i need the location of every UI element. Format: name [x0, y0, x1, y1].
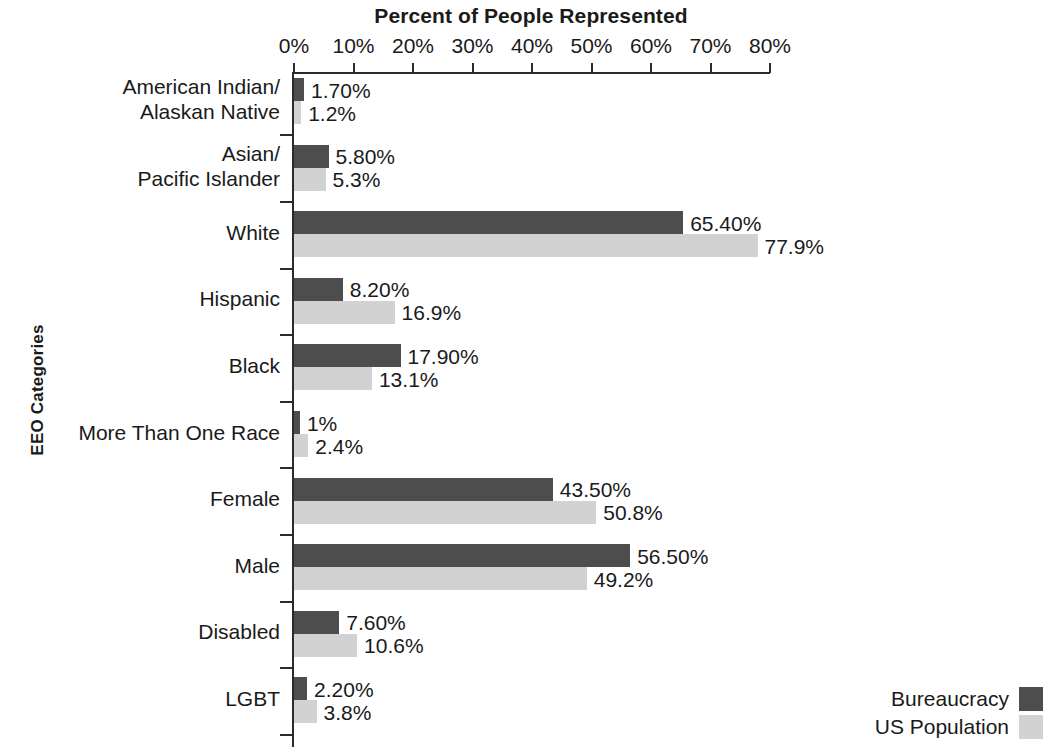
- category-label: Hispanic: [199, 286, 280, 311]
- y-group-tick: [280, 334, 292, 336]
- category-label: Asian/Pacific Islander: [138, 141, 280, 191]
- bar-value-label: 10.6%: [364, 635, 424, 656]
- legend-label-us-population: US Population: [875, 715, 1009, 739]
- category-label-line: American Indian/: [122, 74, 280, 99]
- bar-value-label: 43.50%: [560, 479, 631, 500]
- bar-bureaucracy: [294, 78, 304, 101]
- category-label-line: Asian/: [138, 141, 280, 166]
- x-tick-mark: [293, 63, 295, 73]
- x-tick-label: 30%: [451, 34, 493, 58]
- x-tick-mark: [472, 63, 474, 73]
- y-group-tick: [280, 201, 292, 203]
- y-group-tick: [280, 667, 292, 669]
- category-label-line: Pacific Islander: [138, 166, 280, 191]
- bar-value-label: 1.2%: [308, 103, 356, 124]
- chart-title: Percent of People Represented: [292, 4, 770, 28]
- bar-us-population: [294, 168, 326, 191]
- bar-us-population: [294, 367, 372, 390]
- bar-value-label: 16.9%: [402, 302, 462, 323]
- category-label: Male: [234, 553, 280, 578]
- category-label: Disabled: [198, 619, 280, 644]
- bar-value-label: 2.4%: [315, 436, 363, 457]
- bar-bureaucracy: [294, 278, 343, 301]
- x-tick-mark: [353, 63, 355, 73]
- x-tick-label: 60%: [630, 34, 672, 58]
- bar-bureaucracy: [294, 344, 401, 367]
- x-tick-label: 20%: [392, 34, 434, 58]
- x-axis-tick-labels: 0%10%20%30%40%50%60%70%80%: [0, 34, 1051, 60]
- x-tick-mark: [710, 63, 712, 73]
- bar-value-label: 2.20%: [314, 679, 374, 700]
- legend-swatch-bureaucracy: [1019, 687, 1043, 711]
- bar-us-population: [294, 301, 395, 324]
- legend-item-bureaucracy: Bureaucracy: [891, 687, 1043, 711]
- source-note-line-1: n: [0, 664, 114, 689]
- chart-legend: Bureaucracy US Population: [875, 687, 1043, 739]
- bar-us-population: [294, 634, 357, 657]
- category-label-line: White: [226, 220, 280, 245]
- y-group-tick: [280, 401, 292, 403]
- x-tick-label: 70%: [689, 34, 731, 58]
- source-note: n ic nsus): [0, 664, 114, 739]
- x-tick-label: 80%: [749, 34, 791, 58]
- category-label: LGBT: [225, 686, 280, 711]
- bar-value-label: 5.80%: [336, 146, 396, 167]
- bar-bureaucracy: [294, 145, 329, 168]
- bar-us-population: [294, 501, 596, 524]
- bar-value-label: 5.3%: [333, 169, 381, 190]
- x-tick-label: 40%: [511, 34, 553, 58]
- category-label: American Indian/Alaskan Native: [122, 74, 280, 124]
- bar-bureaucracy: [294, 611, 339, 634]
- bar-value-label: 8.20%: [350, 279, 410, 300]
- bar-value-label: 65.40%: [690, 213, 761, 234]
- category-label-line: Disabled: [198, 619, 280, 644]
- x-tick-label: 50%: [570, 34, 612, 58]
- y-group-tick: [280, 467, 292, 469]
- category-label: Female: [210, 486, 280, 511]
- bar-value-label: 50.8%: [603, 502, 663, 523]
- bar-bureaucracy: [294, 211, 683, 234]
- category-label: White: [226, 220, 280, 245]
- x-tick-label: 0%: [279, 34, 309, 58]
- bar-us-population: [294, 567, 587, 590]
- bar-value-label: 1%: [307, 413, 337, 434]
- bar-chart: Percent of People Represented 0%10%20%30…: [0, 0, 1051, 753]
- bar-value-label: 13.1%: [379, 369, 439, 390]
- bar-value-label: 77.9%: [765, 236, 825, 257]
- y-group-tick: [280, 268, 292, 270]
- bar-us-population: [294, 101, 301, 124]
- category-label-line: Hispanic: [199, 286, 280, 311]
- y-group-tick: [280, 601, 292, 603]
- bar-value-label: 7.60%: [346, 612, 406, 633]
- legend-swatch-us-population: [1019, 715, 1043, 739]
- bar-bureaucracy: [294, 677, 307, 700]
- x-tick-mark: [650, 63, 652, 73]
- bar-value-label: 17.90%: [408, 346, 479, 367]
- category-label: Black: [229, 353, 280, 378]
- x-tick-mark: [769, 63, 771, 73]
- category-label-line: Black: [229, 353, 280, 378]
- y-axis-title: EEO Categories: [28, 300, 48, 480]
- x-tick-label: 10%: [332, 34, 374, 58]
- bar-value-label: 56.50%: [637, 546, 708, 567]
- y-axis-end-tick: [280, 734, 292, 736]
- category-label-line: LGBT: [225, 686, 280, 711]
- category-label: More Than One Race: [78, 420, 280, 445]
- y-group-tick: [280, 534, 292, 536]
- bar-bureaucracy: [294, 478, 553, 501]
- category-label-line: Female: [210, 486, 280, 511]
- bar-bureaucracy: [294, 544, 630, 567]
- x-tick-mark: [591, 63, 593, 73]
- source-note-line-3: nsus): [0, 714, 114, 739]
- category-label-line: More Than One Race: [78, 420, 280, 445]
- bar-value-label: 3.8%: [324, 702, 372, 723]
- bar-value-label: 1.70%: [311, 80, 371, 101]
- bar-value-label: 49.2%: [594, 569, 654, 590]
- y-group-tick: [280, 134, 292, 136]
- x-tick-mark: [412, 63, 414, 73]
- source-note-line-2: ic: [0, 689, 114, 714]
- bar-us-population: [294, 700, 317, 723]
- category-label-line: Male: [234, 553, 280, 578]
- legend-label-bureaucracy: Bureaucracy: [891, 687, 1009, 711]
- legend-item-us-population: US Population: [875, 715, 1043, 739]
